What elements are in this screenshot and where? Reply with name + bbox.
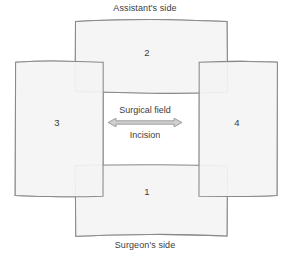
double-headed-arrow-icon — [107, 117, 183, 128]
drape-number-bottom: 1 — [139, 186, 155, 197]
drape-number-top: 2 — [139, 47, 155, 58]
drape-outline-left — [15, 61, 103, 197]
surgical-field-annotation: Surgical field Incision — [95, 104, 195, 141]
surgical-field-label: Surgical field — [95, 104, 195, 116]
incision-label: Incision — [95, 129, 195, 141]
surgeon-side-label: Surgeon's side — [0, 240, 290, 250]
drape-number-right: 4 — [229, 117, 245, 128]
drape-number-left: 3 — [49, 117, 65, 128]
surgical-drape-diagram: Assistant's side 2 1 3 4 Surgical field — [0, 0, 290, 254]
drape-outline-right — [199, 61, 277, 196]
incision-extent-arrow — [95, 117, 195, 128]
